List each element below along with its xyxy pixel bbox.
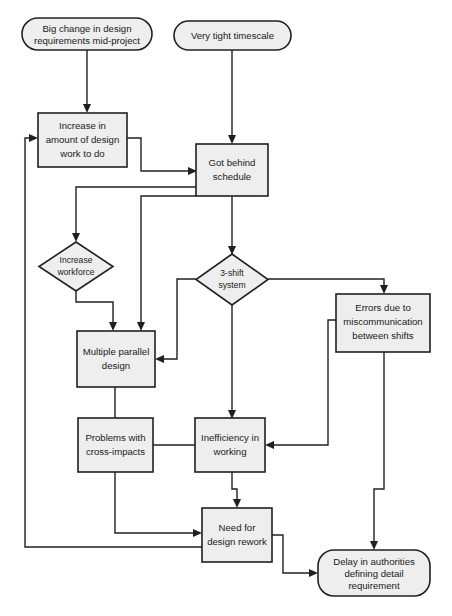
arrowhead-delay-authorities-top — [370, 541, 378, 550]
inefficiency-label-line2: working — [212, 446, 246, 457]
arrowhead-errors-top — [380, 285, 388, 294]
edge-problems-to-need-rework — [115, 472, 195, 533]
increase-design-label-line1: Increase in — [59, 120, 106, 131]
arrowhead-got-behind-top — [228, 135, 236, 144]
increase-workforce-label-line2: workforce — [56, 267, 94, 277]
increase-workforce-label-line1: Increase — [60, 255, 93, 265]
node-got-behind-schedule[interactable]: Got behind schedule — [196, 144, 268, 196]
node-delay-in-authorities[interactable]: Delay in authorities defining detail req… — [318, 550, 430, 596]
node-layer: Big change in design requirements mid-pr… — [22, 18, 430, 596]
delay-authorities-label-line2: defining detail — [344, 568, 403, 579]
edge-increase-design-to-got-behind — [127, 138, 190, 171]
arrowhead-increase-design-top — [83, 104, 91, 113]
multiple-parallel-label-line2: design — [102, 360, 130, 371]
arrowhead-inefficiency-right — [265, 441, 274, 449]
3-shift-label-line1: 3-shift — [220, 268, 244, 278]
edge-need-rework-to-delay-authorities — [272, 535, 311, 573]
node-increase-in-amount-of-design-work[interactable]: Increase in amount of design work to do — [38, 113, 127, 167]
arrowhead-need-rework-left-upper — [193, 529, 202, 537]
node-very-tight-timescale[interactable]: Very tight timescale — [174, 21, 291, 50]
errors-label-line2: miscommunication — [343, 316, 422, 327]
big-change-label-line2: requirements mid-project — [34, 35, 140, 46]
edge-got-behind-to-increase-workforce — [76, 187, 196, 235]
problems-cross-label-line2: cross-impacts — [86, 446, 145, 457]
inefficiency-label-line1: Inefficiency in — [201, 432, 259, 443]
big-change-label-line1: Big change in design — [42, 23, 131, 34]
edge-got-behind-to-multiple-parallel — [141, 196, 196, 324]
arrowhead-increase-design-left — [29, 134, 38, 142]
increase-design-label-line2: amount of design — [46, 134, 120, 145]
arrowhead-delay-authorities-left — [309, 569, 318, 577]
arrowhead-need-rework-top — [233, 499, 241, 508]
arrowhead-increase-workforce-top — [72, 233, 80, 242]
edge-3-shift-to-multiple-parallel — [162, 279, 196, 359]
node-increase-workforce[interactable]: Increase workforce — [39, 242, 113, 291]
arrowhead-multiple-parallel-top-left — [109, 322, 117, 331]
node-3-shift-system[interactable]: 3-shift system — [196, 254, 268, 305]
need-rework-label-line2: design rework — [207, 536, 267, 547]
very-tight-timescale-label: Very tight timescale — [191, 30, 274, 41]
node-inefficiency-in-working[interactable]: Inefficiency in working — [195, 418, 265, 472]
multiple-parallel-label-line1: Multiple parallel — [83, 346, 150, 357]
flowchart-canvas: Big change in design requirements mid-pr… — [0, 0, 452, 616]
edge-3-shift-to-errors — [268, 279, 384, 287]
errors-label-line3: between shifts — [352, 330, 414, 341]
problems-cross-label-line1: Problems with — [85, 432, 145, 443]
node-errors-due-to-miscommunication[interactable]: Errors due to miscommunication between s… — [336, 294, 430, 352]
arrowhead-multiple-parallel-right — [155, 355, 164, 363]
got-behind-label-line1: Got behind — [209, 157, 256, 168]
need-rework-label-line1: Need for — [219, 522, 257, 533]
node-multiple-parallel-design[interactable]: Multiple parallel design — [77, 331, 155, 387]
delay-authorities-label-line3: requirement — [348, 580, 400, 591]
edge-errors-to-delay-authorities — [374, 352, 384, 543]
increase-design-label-line3: work to do — [59, 148, 104, 159]
flowchart-svg: Big change in design requirements mid-pr… — [0, 0, 452, 616]
arrowhead-multiple-parallel-top-right — [137, 322, 145, 331]
got-behind-label-line2: schedule — [213, 171, 251, 182]
errors-label-line1: Errors due to — [355, 302, 410, 313]
node-need-for-design-rework[interactable]: Need for design rework — [202, 508, 272, 562]
node-big-change-in-design-requirements[interactable]: Big change in design requirements mid-pr… — [22, 18, 152, 50]
3-shift-label-line2: system — [218, 280, 245, 290]
delay-authorities-label-line1: Delay in authorities — [333, 556, 415, 567]
edge-inefficiency-to-need-rework — [232, 472, 237, 501]
edge-increase-workforce-to-multiple-parallel — [76, 291, 113, 324]
edge-errors-to-inefficiency — [272, 320, 336, 445]
node-problems-with-cross-impacts[interactable]: Problems with cross-impacts — [78, 418, 153, 472]
